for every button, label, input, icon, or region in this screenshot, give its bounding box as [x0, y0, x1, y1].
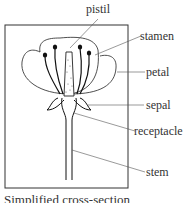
label-sepal: sepal [146, 99, 171, 111]
label-stem: stem [146, 166, 169, 178]
label-receptacle: receptacle [134, 125, 183, 137]
receptacle-shape [62, 98, 77, 120]
sepal-shape [47, 98, 91, 110]
label-petal: petal [146, 66, 169, 78]
diagram-caption: Simplified cross-section [4, 192, 130, 203]
pistil-shape [64, 52, 74, 96]
label-pistil: pistil [86, 3, 110, 15]
label-stamen: stamen [140, 30, 174, 42]
